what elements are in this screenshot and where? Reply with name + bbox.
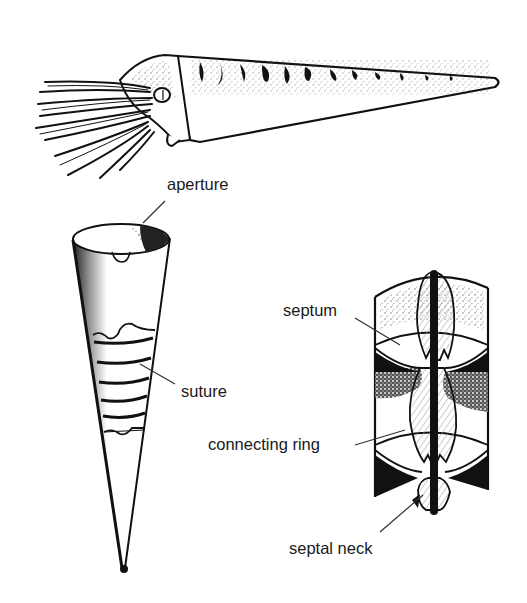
shell-section-figure — [373, 270, 490, 515]
external-shell-figure — [73, 224, 170, 573]
illustration — [0, 0, 527, 603]
diagram-canvas: aperture suture septum connecting ring s… — [0, 0, 527, 603]
label-septum: septum — [283, 302, 337, 319]
label-aperture: aperture — [167, 176, 228, 193]
label-connecting-ring: connecting ring — [208, 436, 320, 453]
living-animal-figure — [36, 55, 499, 178]
label-suture: suture — [181, 383, 227, 400]
label-septal-neck: septal neck — [289, 540, 372, 557]
